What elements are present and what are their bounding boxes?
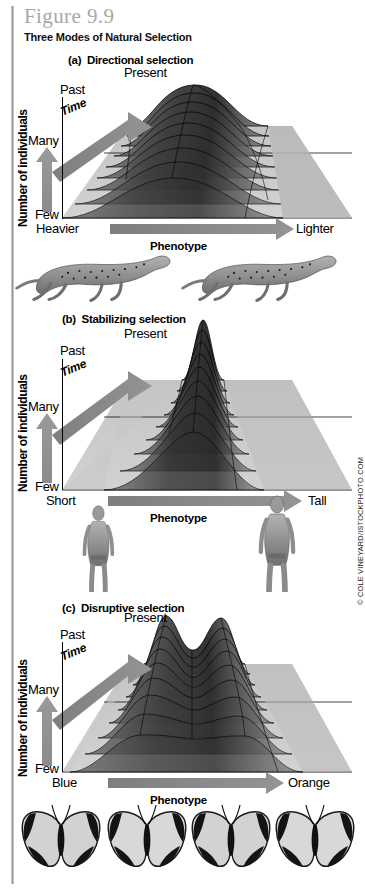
panel-stabilizing-selection: (b) Stabilizing selection Number of indi… <box>0 307 363 592</box>
cheetah-illustrations <box>0 52 363 307</box>
butterfly-illustrations <box>0 592 363 891</box>
butterfly-2 <box>108 805 186 867</box>
human-tall <box>261 496 293 592</box>
cheetah-right <box>183 256 336 300</box>
butterfly-3 <box>192 805 270 867</box>
butterfly-1 <box>22 805 100 867</box>
figure-title: Three Modes of Natural Selection <box>24 31 192 43</box>
human-short <box>84 506 112 592</box>
figure-number: Figure 9.9 <box>24 6 114 27</box>
photo-credit: © COLE VINEYARD/ISTOCKPHOTO.COM <box>356 457 365 605</box>
butterfly-4 <box>276 805 354 867</box>
cheetah-left <box>17 256 170 300</box>
panel-disruptive-selection: (c) Disruptive selection Number of indiv… <box>0 592 363 891</box>
panel-directional-selection: (a) Directional selection Number of indi… <box>0 52 363 307</box>
human-illustrations <box>0 307 363 592</box>
